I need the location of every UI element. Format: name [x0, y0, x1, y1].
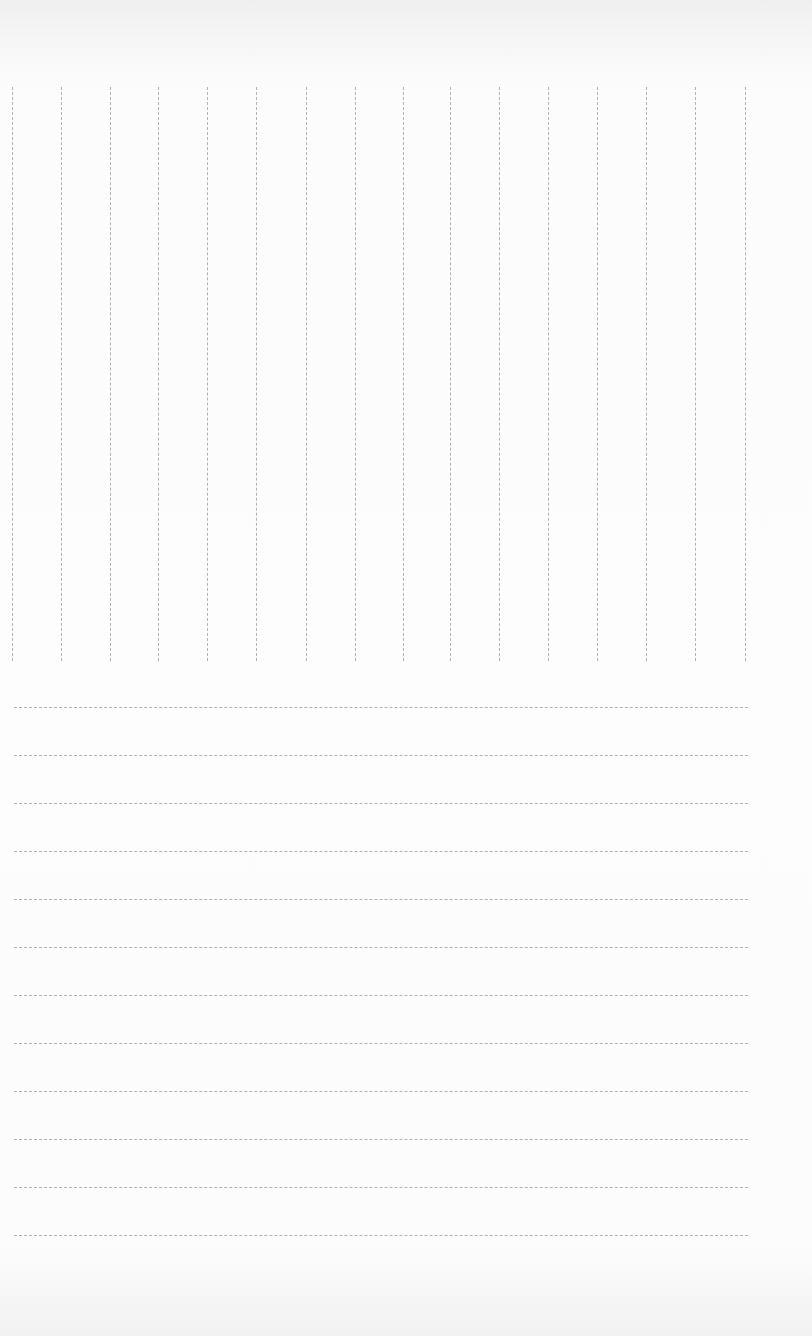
writing-line	[14, 707, 748, 708]
writing-line	[14, 1139, 748, 1140]
column-divider-line	[355, 87, 356, 661]
column-divider-line	[12, 87, 13, 661]
column-divider-line	[745, 87, 746, 661]
column-divider-line	[61, 87, 62, 661]
writing-line	[14, 1091, 748, 1092]
writing-line	[14, 851, 748, 852]
column-divider-line	[499, 87, 500, 661]
writing-line	[14, 1235, 748, 1236]
writing-line	[14, 995, 748, 996]
column-divider-line	[207, 87, 208, 661]
writing-line	[14, 803, 748, 804]
writing-line	[14, 755, 748, 756]
column-divider-line	[158, 87, 159, 661]
writing-line	[14, 947, 748, 948]
writing-line	[14, 1187, 748, 1188]
column-divider-line	[597, 87, 598, 661]
column-divider-line	[695, 87, 696, 661]
writing-line	[14, 899, 748, 900]
column-divider-line	[450, 87, 451, 661]
column-divider-line	[306, 87, 307, 661]
paper-sheet	[0, 0, 812, 1336]
column-divider-line	[403, 87, 404, 661]
column-divider-line	[646, 87, 647, 661]
column-divider-line	[548, 87, 549, 661]
column-grid	[12, 87, 746, 661]
column-divider-line	[256, 87, 257, 661]
writing-line	[14, 1043, 748, 1044]
column-divider-line	[110, 87, 111, 661]
